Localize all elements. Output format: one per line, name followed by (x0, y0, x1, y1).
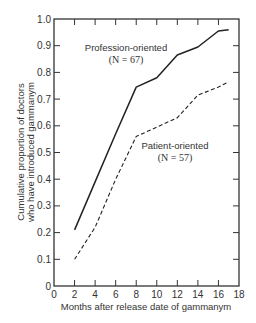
y-tick-label: 0.3 (37, 200, 51, 211)
x-tick-label: 18 (233, 289, 245, 300)
y-axis-label-line-2: who have introduced gammanym (25, 82, 36, 223)
y-tick-label: 0.2 (37, 227, 51, 238)
y-tick-label: 0.7 (37, 94, 51, 105)
series-line-profession (75, 30, 229, 230)
x-tick-label: 12 (172, 289, 184, 300)
series-label-patient: Patient-oriented (141, 140, 208, 151)
line-chart: 024681012141618 00.10.20.30.40.50.60.70.… (0, 0, 256, 323)
x-tick-label: 14 (192, 289, 204, 300)
plot-frame (54, 19, 239, 286)
y-axis-label: Cumulative proportion of doctors who hav… (15, 82, 36, 223)
series-label-profession: Profession-oriented (85, 42, 167, 53)
x-tick-label: 10 (151, 289, 163, 300)
y-tick-label: 0.5 (37, 147, 51, 158)
plot-border (54, 19, 239, 286)
x-axis-label: Months after release date of gammanym (61, 301, 232, 312)
series-line-patient (75, 82, 229, 260)
y-tick-label: 1.0 (37, 14, 51, 25)
y-tick-label: 0.1 (37, 254, 51, 265)
y-tick-label: 0 (45, 281, 51, 292)
y-tick-label: 0.6 (37, 120, 51, 131)
y-tick-label: 0.9 (37, 40, 51, 51)
x-tick-labels: 024681012141618 (51, 289, 245, 300)
x-tick-label: 4 (92, 289, 98, 300)
y-tick-labels: 00.10.20.30.40.50.60.70.80.91.0 (37, 14, 51, 292)
x-tick-label: 8 (133, 289, 139, 300)
series-n-patient: (N = 57) (158, 152, 193, 164)
y-tick-label: 0.8 (37, 67, 51, 78)
x-tick-label: 6 (113, 289, 119, 300)
x-tick-label: 0 (51, 289, 57, 300)
x-tick-label: 16 (213, 289, 225, 300)
x-tick-label: 2 (72, 289, 78, 300)
series-n-profession: (N = 67) (109, 54, 144, 66)
axis-ticks (54, 19, 239, 286)
y-tick-label: 0.4 (37, 174, 51, 185)
